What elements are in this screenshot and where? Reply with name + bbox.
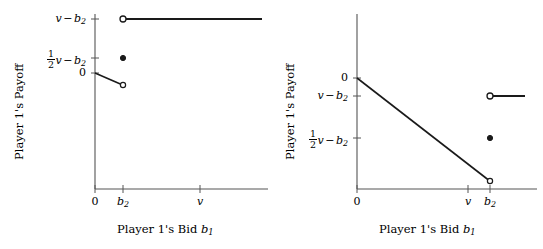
losing-payoff-segment — [95, 73, 122, 85]
y-axis-title: Player 1's Payoff — [283, 64, 297, 160]
right-panel-plot-area — [271, 0, 543, 249]
losing-payoff-segment — [357, 78, 489, 180]
left-panel-plot-area — [0, 0, 272, 249]
winning-segment-open-endpoint — [120, 16, 126, 22]
winning-segment-open-endpoint — [487, 93, 493, 99]
x-tick-label-b2: b2 — [475, 196, 505, 209]
x-axis-title: Player 1's Bid b1 — [379, 222, 476, 237]
tie-payoff-filled-point — [487, 135, 492, 140]
x-tick-label-zero: 0 — [342, 196, 372, 207]
losing-segment-open-endpoint — [120, 82, 125, 87]
x-axis-title: Player 1's Bid b1 — [117, 222, 214, 237]
tie-payoff-filled-point — [120, 55, 125, 60]
y-tick-label-v-minus-b2: v−b2 — [0, 13, 86, 26]
x-tick-label-zero: 0 — [80, 196, 110, 207]
payoff-chart-left-panel: v−b2 12v−b2 0 0 b2 v Player 1's Payoff P… — [0, 0, 272, 249]
two-panel-figure: v−b2 12v−b2 0 0 b2 v Player 1's Payoff P… — [0, 0, 543, 249]
losing-segment-open-endpoint — [487, 178, 492, 183]
y-axis-title: Player 1's Payoff — [12, 64, 26, 160]
payoff-chart-right-panel: 0 v−b2 12v−b2 0 v b2 Player 1's Payoff P… — [271, 0, 543, 249]
x-tick-label-v: v — [185, 196, 215, 207]
x-tick-label-b2: b2 — [108, 196, 138, 209]
